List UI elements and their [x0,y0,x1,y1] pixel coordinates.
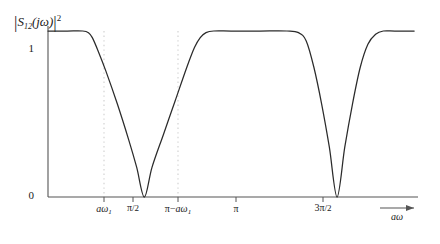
x-tick-label-3pi-half: 3π/2 [314,202,331,214]
x-axis-arrow-head [406,205,414,211]
chart-figure: |S12(jω)|2 1 0 aω1 π/2 π−aω1 π 3π/2 [0,0,440,244]
x-tick-label-pi-half: π/2 [127,202,139,214]
plot-canvas [0,0,440,244]
transfer-function-curve [48,31,414,197]
x-axis-label: aω [391,211,403,222]
x-tick-label-pi-minus-a-omega1: π−aω1 [165,203,191,217]
x-tick-label-a-omega1: aω1 [96,203,112,217]
x-tick-label-pi: π [233,203,238,214]
